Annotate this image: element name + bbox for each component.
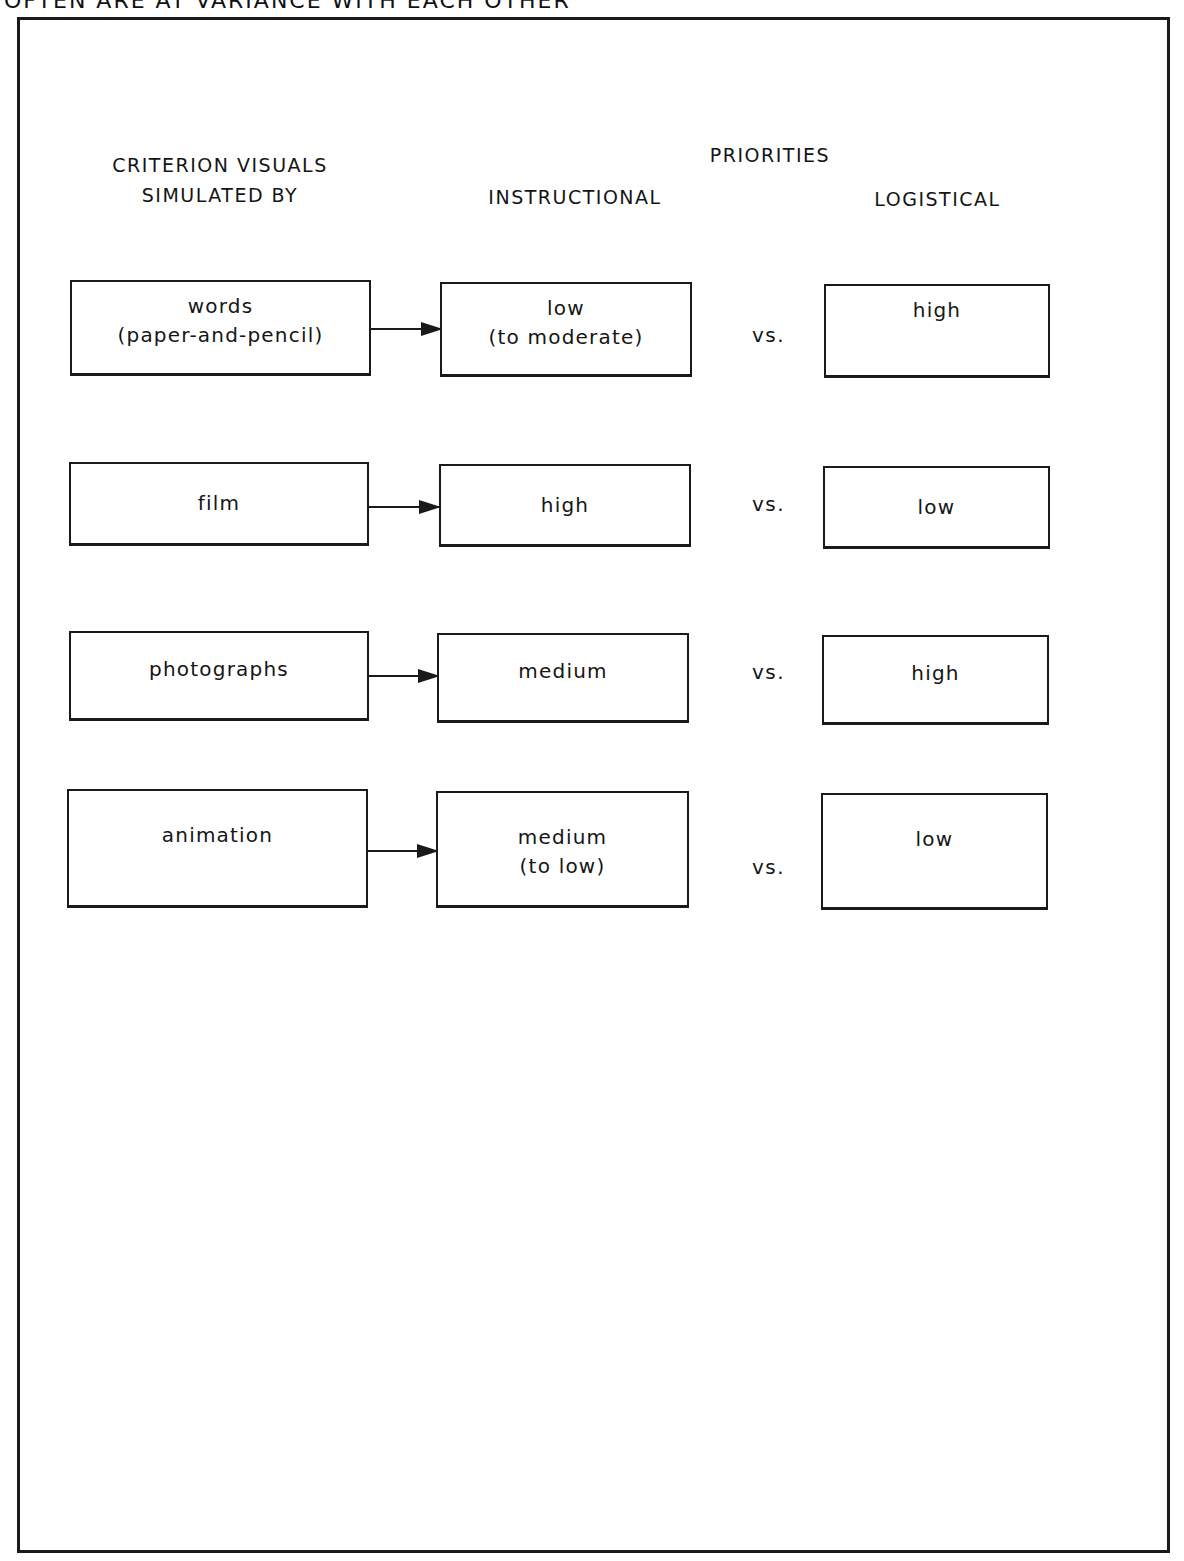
logistical-value: high bbox=[913, 296, 961, 325]
logistical-value: high bbox=[911, 659, 959, 688]
medium-box-film: film bbox=[69, 462, 369, 546]
header-instructional: INSTRUCTIONAL bbox=[440, 182, 710, 212]
logistical-box-film: low bbox=[823, 466, 1050, 549]
medium-label: photographs bbox=[149, 655, 289, 684]
arrow-icon bbox=[371, 328, 441, 330]
medium-sublabel: (paper-and-pencil) bbox=[118, 321, 324, 350]
logistical-box-words: high bbox=[824, 284, 1050, 378]
vs-label: vs. bbox=[752, 323, 785, 347]
header-criterion-line2: SIMULATED BY bbox=[70, 180, 370, 210]
instructional-qualifier: (to low) bbox=[520, 852, 606, 881]
logistical-box-photographs: high bbox=[822, 635, 1049, 725]
medium-label: animation bbox=[162, 821, 273, 850]
header-logistical: LOGISTICAL bbox=[825, 184, 1050, 214]
instructional-qualifier: (to moderate) bbox=[489, 323, 644, 352]
instructional-value: low bbox=[547, 294, 585, 323]
header-priorities: PRIORITIES bbox=[670, 140, 870, 170]
instructional-box-film: high bbox=[439, 464, 691, 547]
medium-box-animation: animation bbox=[67, 789, 368, 908]
logistical-box-animation: low bbox=[821, 793, 1048, 910]
vs-label: vs. bbox=[752, 855, 785, 879]
diagram-frame bbox=[17, 17, 1170, 1553]
medium-box-words: words (paper-and-pencil) bbox=[70, 280, 371, 376]
instructional-value: medium bbox=[518, 657, 607, 686]
vs-label: vs. bbox=[752, 660, 785, 684]
instructional-value: high bbox=[541, 491, 589, 520]
instructional-box-words: low (to moderate) bbox=[440, 282, 692, 377]
instructional-box-photographs: medium bbox=[437, 633, 689, 723]
medium-box-photographs: photographs bbox=[69, 631, 369, 721]
arrow-icon bbox=[368, 850, 437, 852]
cropped-caption: OFTEN ARE AT VARIANCE WITH EACH OTHER bbox=[4, 0, 571, 13]
instructional-value: medium bbox=[518, 823, 607, 852]
logistical-value: low bbox=[916, 825, 954, 854]
instructional-box-animation: medium (to low) bbox=[436, 791, 689, 908]
header-criterion: CRITERION VISUALS SIMULATED BY bbox=[70, 150, 370, 210]
header-criterion-line1: CRITERION VISUALS bbox=[70, 150, 370, 180]
vs-label: vs. bbox=[752, 492, 785, 516]
medium-label: film bbox=[198, 489, 240, 518]
arrow-icon bbox=[369, 675, 438, 677]
medium-label: words bbox=[188, 292, 254, 321]
arrow-icon bbox=[369, 506, 439, 508]
logistical-value: low bbox=[918, 493, 956, 522]
